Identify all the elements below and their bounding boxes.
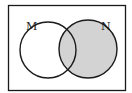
set-n-label: N (101, 20, 111, 33)
venn-diagram: M N (0, 0, 132, 93)
set-m-label: M (26, 20, 37, 33)
